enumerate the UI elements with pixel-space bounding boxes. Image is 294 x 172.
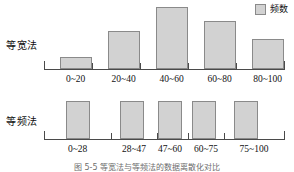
chart-equal-width xyxy=(44,4,284,70)
bar xyxy=(204,21,236,69)
plot-area-equal-width xyxy=(44,4,284,70)
figure-caption: 图 5-5 等宽法与等频法的数据离散化对比 xyxy=(0,163,294,172)
x-tick-label: 47~60 xyxy=(158,142,182,156)
row-label-equal-frequency: 等频法 xyxy=(6,117,38,127)
bottom-axis-tick xyxy=(44,131,45,140)
bar xyxy=(252,39,284,69)
bar xyxy=(192,101,216,139)
x-tick-label: 0~20 xyxy=(66,72,85,86)
bar xyxy=(60,57,92,69)
bar xyxy=(158,101,182,139)
top-axis-tick xyxy=(188,63,189,70)
bar xyxy=(108,31,140,69)
bottom-axis-tick xyxy=(284,131,285,140)
x-tick-label: 80~100 xyxy=(253,72,282,86)
x-axis-line-top xyxy=(44,69,284,70)
x-tick-label: 40~60 xyxy=(160,72,184,86)
top-axis-tick xyxy=(236,63,237,70)
top-axis-tick xyxy=(44,61,45,70)
bar xyxy=(66,101,90,139)
x-tick-label: 0~28 xyxy=(68,142,87,156)
figure-container: 频数 等宽法 0~2020~4040~6060~8080~100 等频法 0~2… xyxy=(0,0,294,172)
bar xyxy=(120,101,144,139)
chart-equal-frequency xyxy=(44,92,284,140)
x-tick-label: 60~80 xyxy=(208,72,232,86)
bar xyxy=(234,101,258,139)
bottom-axis-tick xyxy=(224,133,225,140)
top-axis-tick xyxy=(140,63,141,70)
x-tick-labels-equal-width: 0~2020~4040~6060~8080~100 xyxy=(44,72,284,86)
top-axis-tick xyxy=(284,61,285,70)
x-tick-label: 60~75 xyxy=(194,142,218,156)
row-label-equal-width: 等宽法 xyxy=(6,41,38,51)
x-tick-label: 20~40 xyxy=(112,72,136,86)
bar xyxy=(156,7,188,69)
x-tick-label: 75~100 xyxy=(240,142,269,156)
x-tick-label: 28~47 xyxy=(122,142,146,156)
bottom-axis-tick xyxy=(188,133,189,140)
bottom-axis-tick xyxy=(111,133,112,140)
x-axis-line-bottom xyxy=(44,139,284,140)
plot-area-equal-frequency xyxy=(44,92,284,140)
top-axis-tick xyxy=(92,63,93,70)
x-tick-labels-equal-frequency: 0~2828~4747~6060~7575~100 xyxy=(44,142,284,156)
